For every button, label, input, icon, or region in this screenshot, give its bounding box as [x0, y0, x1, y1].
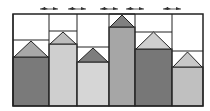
house-bar-diagram — [0, 0, 210, 111]
house-column-1 — [13, 14, 49, 106]
column-body — [109, 27, 135, 106]
double-arrow-icon — [68, 7, 86, 10]
double-arrow-icon — [163, 7, 181, 10]
house-column-6 — [172, 14, 203, 106]
double-arrow-icon — [126, 7, 144, 10]
roof-triangle — [14, 41, 48, 57]
double-arrow-icon — [40, 7, 58, 10]
house-column-2 — [49, 14, 77, 106]
double-arrow-icon — [100, 7, 118, 10]
column-body — [13, 57, 49, 106]
roof-triangle — [50, 32, 76, 44]
house-column-5 — [135, 14, 172, 106]
roof-triangle — [78, 48, 108, 62]
house-column-4 — [109, 14, 135, 106]
column-body — [135, 49, 172, 106]
column-body — [172, 67, 203, 106]
roof-triangle — [110, 15, 134, 27]
columns — [13, 14, 203, 106]
arrow-row — [40, 7, 181, 10]
roof-triangle — [136, 32, 171, 49]
column-body — [49, 44, 77, 106]
house-column-3 — [77, 14, 109, 106]
column-body — [77, 62, 109, 106]
roof-triangle — [173, 52, 202, 67]
